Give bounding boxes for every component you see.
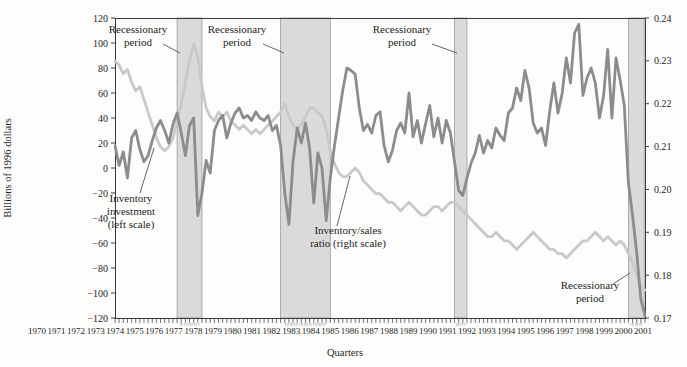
inventory-sales-ratio-label-leader-line — [337, 176, 350, 226]
left-tick-label: −100 — [87, 288, 108, 299]
year-label-1972: 1972 — [67, 326, 85, 336]
inventory-sales-ratio-label-text: Inventory/sales — [314, 224, 381, 236]
left-tick-label: 120 — [93, 13, 108, 24]
year-label-1971: 1971 — [48, 326, 66, 336]
year-label-2001: 2001 — [634, 326, 652, 336]
x-axis-title: Quarters — [327, 347, 363, 358]
recession-label-3-leader-line — [432, 44, 457, 53]
year-label-1980: 1980 — [224, 326, 243, 336]
recession-label-2: Recessionaryperiod — [208, 23, 284, 53]
year-label-1981: 1981 — [243, 326, 261, 336]
year-label-1985: 1985 — [321, 326, 340, 336]
left-tick-label: 40 — [98, 113, 108, 124]
year-label-1975: 1975 — [126, 326, 145, 336]
inventory-sales-ratio-label-text: ratio (right scale) — [310, 237, 386, 250]
inventory-investment-label-text: (left scale) — [108, 218, 155, 231]
year-label-1986: 1986 — [341, 326, 360, 336]
year-label-1988: 1988 — [380, 326, 399, 336]
inventory-investment-label-text: Inventory — [110, 192, 153, 204]
left-tick-label: −40 — [92, 213, 108, 224]
inventory-investment-label: Inventoryinvestment(left scale) — [107, 148, 155, 231]
recession-label-2-text: period — [223, 36, 252, 48]
year-label-1999: 1999 — [595, 326, 614, 336]
year-label-1994: 1994 — [497, 326, 516, 336]
left-tick-label: −60 — [92, 238, 108, 249]
year-label-1974: 1974 — [106, 326, 125, 336]
recession-label-1-text: Recessionary — [109, 23, 168, 35]
year-label-1984: 1984 — [302, 326, 321, 336]
recession-label-3: Recessionaryperiod — [373, 23, 457, 53]
recession-label-4-text: Recessionary — [561, 279, 620, 291]
recession-label-1-text: period — [124, 36, 153, 48]
year-label-1992: 1992 — [458, 326, 476, 336]
year-label-1982: 1982 — [263, 326, 281, 336]
left-tick-label: −120 — [87, 313, 108, 324]
recession-label-1: Recessionaryperiod — [109, 23, 180, 53]
right-tick-label: 0.18 — [654, 270, 672, 281]
year-label-1970: 1970 — [28, 326, 47, 336]
year-label-1993: 1993 — [478, 326, 497, 336]
inventory-investment-label-text: investment — [107, 205, 155, 217]
right-tick-label: 0.20 — [654, 184, 672, 195]
recession-label-4: Recessionaryperiod — [561, 273, 630, 304]
recession-label-3-text: period — [388, 36, 417, 48]
right-tick-label: 0.22 — [654, 98, 672, 109]
right-tick-label: 0.21 — [654, 141, 672, 152]
year-label-1976: 1976 — [145, 326, 164, 336]
right-tick-label: 0.19 — [654, 227, 672, 238]
left-tick-label: −80 — [92, 263, 108, 274]
year-label-1977: 1977 — [165, 326, 184, 336]
year-label-1998: 1998 — [575, 326, 594, 336]
year-label-1996: 1996 — [536, 326, 555, 336]
year-label-1989: 1989 — [399, 326, 418, 336]
left-tick-label: 0 — [103, 163, 108, 174]
left-tick-label: 80 — [98, 63, 108, 74]
left-tick-label: 20 — [98, 138, 108, 149]
right-tick-label: 0.23 — [654, 55, 672, 66]
left-tick-label: −20 — [92, 188, 108, 199]
year-label-1983: 1983 — [282, 326, 301, 336]
recession-label-2-text: Recessionary — [208, 23, 267, 35]
left-tick-label: 60 — [98, 88, 108, 99]
year-label-1973: 1973 — [87, 326, 106, 336]
right-tick-label: 0.24 — [654, 13, 672, 24]
year-label-1979: 1979 — [204, 326, 223, 336]
year-label-1995: 1995 — [517, 326, 536, 336]
right-tick-label: 0.17 — [654, 313, 672, 324]
year-label-1991: 1991 — [439, 326, 457, 336]
year-label-1978: 1978 — [184, 326, 203, 336]
recession-label-3-text: Recessionary — [373, 23, 432, 35]
y-axis-title: Billions of 1996 dollars — [2, 118, 13, 217]
recession-label-4-text: period — [576, 292, 605, 304]
left-tick-label: 100 — [93, 38, 108, 49]
year-label-1990: 1990 — [419, 326, 438, 336]
year-label-2000: 2000 — [615, 326, 634, 336]
inventory-investment-vs-ratio-chart: IV I II III IV II II III IV I II III IV … — [0, 0, 687, 367]
inventory-chart-figure: IV I II III IV II II III IV I II III IV … — [0, 0, 687, 367]
year-label-1987: 1987 — [360, 326, 379, 336]
year-label-1997: 1997 — [556, 326, 575, 336]
